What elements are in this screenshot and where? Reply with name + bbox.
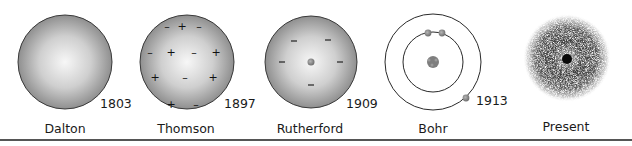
electron — [463, 95, 470, 102]
svg-text:–: – — [191, 46, 197, 59]
dalton-model — [18, 15, 112, 109]
year-dalton: 1803 — [100, 96, 132, 111]
bohr-model — [385, 14, 481, 110]
svg-text:–: – — [164, 20, 170, 33]
nucleus — [562, 54, 572, 64]
label-dalton: Dalton — [10, 121, 120, 136]
label-thomson: Thomson — [131, 121, 241, 136]
label-present: Present — [511, 119, 621, 134]
svg-text:–: – — [147, 46, 153, 59]
atomic-models-diagram: –+– –+–+ +–+ +– — [0, 0, 632, 146]
year-thomson: 1897 — [224, 96, 256, 111]
svg-text:+: + — [211, 46, 220, 59]
svg-text:+: + — [150, 71, 159, 84]
nucleus — [427, 56, 439, 68]
label-rutherford: Rutherford — [255, 121, 365, 136]
svg-text:+: + — [166, 98, 175, 111]
electron — [425, 30, 432, 37]
svg-text:+: + — [166, 46, 175, 59]
label-bohr: Bohr — [378, 121, 488, 136]
svg-text:+: + — [177, 20, 186, 33]
svg-text:–: – — [193, 98, 199, 111]
thomson-model: –+– –+–+ +–+ +– — [140, 15, 234, 111]
bottom-divider — [0, 139, 632, 141]
svg-text:+: + — [208, 71, 217, 84]
year-rutherford: 1909 — [346, 96, 378, 111]
svg-text:–: – — [196, 20, 202, 33]
rutherford-model — [265, 16, 357, 108]
year-bohr: 1913 — [476, 93, 508, 108]
present-model — [523, 14, 611, 102]
nucleus — [308, 59, 315, 66]
electron — [439, 30, 446, 37]
svg-text:–: – — [182, 71, 188, 84]
